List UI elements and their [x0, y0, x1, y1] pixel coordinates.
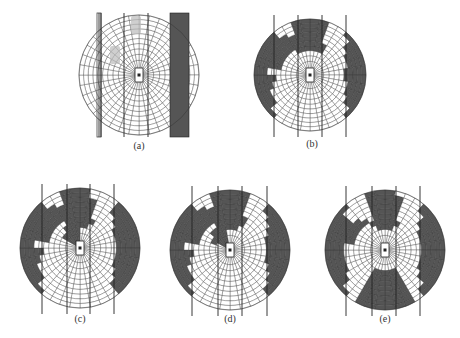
polar-grid-panel-c — [20, 184, 140, 314]
panel-label-d: (d) — [224, 313, 236, 324]
panel-label-b: (b) — [306, 138, 318, 149]
vehicle-ahead — [131, 16, 141, 34]
vehicle-left — [110, 46, 120, 64]
polar-grid-panel-d — [170, 186, 290, 316]
polar-grid-panel-a — [79, 13, 199, 137]
occupancy-grid-figure — [0, 0, 460, 338]
obstacle-bar — [170, 13, 189, 137]
panel-label-c: (c) — [74, 313, 85, 324]
polar-grid-panel-e — [325, 186, 445, 316]
panel-label-e: (e) — [379, 313, 390, 324]
polar-grid-panel-b — [254, 15, 366, 137]
panel-label-a: (a) — [133, 140, 144, 151]
